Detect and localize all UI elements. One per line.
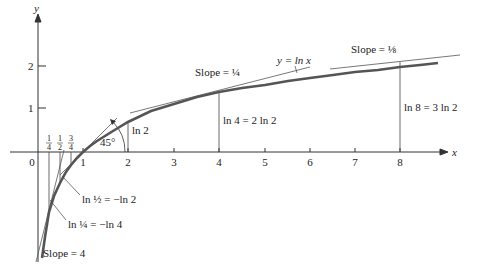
ln-graph: y x 1 2 0 1 2 3 4 5 6 7 8 14 12 34 [0,0,488,266]
svg-text:2: 2 [28,60,34,72]
annotations: ln 2 ln 4 = 2 ln 2 ln 8 = 3 ln 2 ln ½ = … [43,43,458,259]
svg-text:ln 2: ln 2 [132,124,149,136]
x-axis-label: x [451,146,457,158]
svg-text:1: 1 [47,134,51,143]
svg-text:3: 3 [69,134,73,143]
svg-text:Slope = ¼: Slope = ¼ [195,66,240,78]
svg-text:2: 2 [125,156,131,168]
svg-text:3: 3 [171,156,177,168]
svg-text:4: 4 [47,143,51,152]
svg-text:1: 1 [28,102,34,114]
svg-text:5: 5 [262,156,268,168]
svg-text:Slope = ⅛: Slope = ⅛ [351,43,397,55]
svg-text:8: 8 [397,156,403,168]
function-label: y = ln x [276,54,311,66]
y-tick-labels: 1 2 [28,60,34,114]
svg-text:4: 4 [69,143,73,152]
svg-text:4: 4 [216,156,222,168]
svg-text:1: 1 [80,156,86,168]
y-axis-arrow-icon [35,14,41,22]
svg-text:0: 0 [29,156,35,168]
svg-text:ln 4 = 2 ln 2: ln 4 = 2 ln 2 [223,114,277,126]
y-axis-label: y [33,2,39,14]
svg-text:2: 2 [58,143,62,152]
svg-text:Slope = 4: Slope = 4 [43,247,86,259]
svg-text:ln ¼ = −ln 4: ln ¼ = −ln 4 [68,218,123,230]
svg-text:6: 6 [307,156,313,168]
svg-text:1: 1 [58,134,62,143]
fraction-tick-labels: 14 12 34 [46,134,74,152]
svg-text:ln 8 = 3 ln 2: ln 8 = 3 ln 2 [404,101,458,113]
svg-text:ln ½ = −ln 2: ln ½ = −ln 2 [82,193,136,205]
x-tick-labels: 0 1 2 3 4 5 6 7 8 [29,156,403,168]
x-axis-arrow-icon [440,149,448,155]
svg-text:45°: 45° [100,136,115,148]
svg-text:7: 7 [352,156,358,168]
